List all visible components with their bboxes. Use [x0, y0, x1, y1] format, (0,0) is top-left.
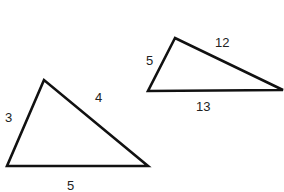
side-label-left: 5	[146, 53, 153, 68]
side-label-right: 4	[95, 90, 102, 105]
triangle-3-4-5: 3 4 5	[5, 80, 148, 192]
triangles-diagram: 3 4 5 5 12 13	[0, 0, 284, 192]
side-label-bottom: 13	[196, 99, 210, 114]
triangle-5-12-13: 5 12 13	[146, 35, 283, 114]
triangle-shape	[7, 80, 148, 166]
side-label-top: 12	[215, 35, 229, 50]
side-label-left: 3	[5, 110, 12, 125]
side-label-bottom: 5	[67, 178, 74, 192]
